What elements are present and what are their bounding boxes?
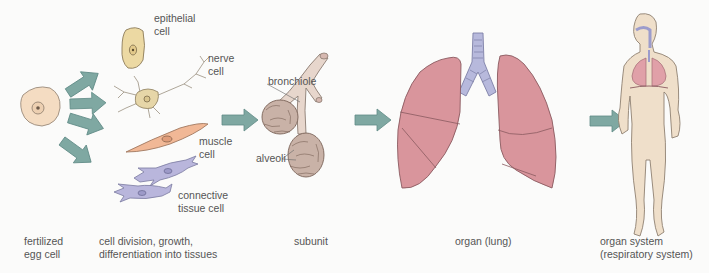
muscle-cell-label: muscle cell <box>199 135 232 160</box>
arrow-to-organ <box>355 109 391 131</box>
human-respiratory-system-icon <box>618 14 680 236</box>
arrow-to-subunit <box>222 109 258 131</box>
caption-organ-system: organ system (respiratory system) <box>600 235 693 261</box>
caption-subunit: subunit <box>294 235 328 248</box>
caption-fertilized-egg-cell: fertilized egg cell <box>24 235 63 261</box>
lung-organ-icon <box>398 33 557 188</box>
muscle-cell-icon <box>126 124 208 153</box>
caption-cell-differentiation: cell division, growth, differentiation i… <box>99 235 217 261</box>
nerve-cell-label: nerve cell <box>208 52 234 77</box>
connective-tissue-cell-label: connective tissue cell <box>178 189 228 214</box>
fertilized-egg-cell-icon <box>21 87 60 126</box>
differentiation-arrows <box>56 64 107 171</box>
bronchiole-label: bronchiole <box>268 75 316 88</box>
alveoli-label: alveoli <box>256 152 286 165</box>
epithelial-cell-label: epithelial cell <box>154 12 195 37</box>
diagram-canvas <box>0 0 709 273</box>
caption-organ-lung: organ (lung) <box>455 235 512 248</box>
epithelial-cell-icon <box>122 28 145 69</box>
